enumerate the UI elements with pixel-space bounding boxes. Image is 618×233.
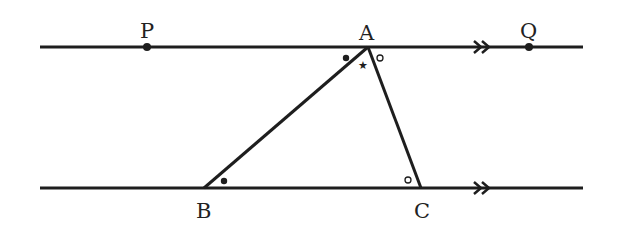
label-P: P xyxy=(140,19,154,43)
segment-AB xyxy=(204,47,368,188)
label-A: A xyxy=(358,21,375,45)
label-C: C xyxy=(414,199,430,223)
label-B: B xyxy=(196,199,211,223)
label-Q: Q xyxy=(520,19,537,43)
point-Q xyxy=(525,43,533,51)
angle-mark-dot-PAB xyxy=(343,55,349,61)
angle-mark-circle-QAC xyxy=(377,55,383,61)
angle-mark-dot-ABC xyxy=(221,178,227,184)
angle-mark-star-icon: ★ xyxy=(358,59,368,72)
geometry-diagram: ★ P A Q B C xyxy=(0,0,618,233)
segment-AC xyxy=(368,47,421,188)
angle-mark-circle-ACB xyxy=(405,177,411,183)
point-P xyxy=(143,43,151,51)
